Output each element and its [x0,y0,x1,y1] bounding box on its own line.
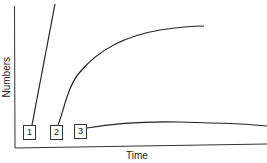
y-axis [15,6,16,148]
x-axis-label: Time [126,150,148,161]
y-axis-label: Numbers [1,58,12,98]
curve-3-label-box: 3 [74,124,87,139]
curve-1-label-box: 1 [23,125,36,140]
curve-3 [87,122,267,128]
diagram-canvas [0,0,267,163]
curve-2-label-box: 2 [50,125,63,140]
curve-1 [32,4,55,125]
curve-2 [58,26,204,125]
x-axis [15,144,267,148]
